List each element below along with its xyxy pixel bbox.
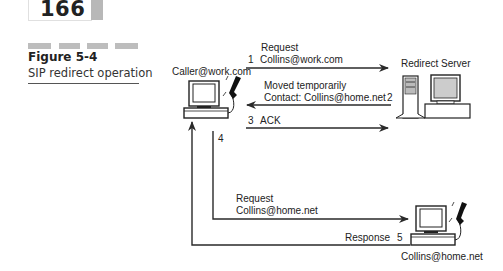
caller-computer-icon bbox=[184, 76, 241, 118]
message-arrow-5 bbox=[192, 122, 410, 245]
message-1-line1: Request bbox=[261, 42, 298, 54]
message-1-step: 1 bbox=[248, 54, 254, 66]
callee-label: Collins@home.net bbox=[401, 251, 483, 263]
sip-redirect-diagram bbox=[0, 0, 503, 271]
message-3-line1: ACK bbox=[260, 115, 281, 127]
message-5-line1: Response bbox=[345, 232, 390, 244]
message-4-line1: Request bbox=[236, 193, 273, 205]
message-4-line2: Collins@home.net bbox=[236, 205, 318, 217]
message-3-step: 3 bbox=[248, 115, 254, 127]
message-2-step: 2 bbox=[387, 92, 393, 104]
message-5-step: 5 bbox=[397, 232, 403, 244]
message-2-line1: Moved temporarily bbox=[264, 80, 346, 92]
message-2-line2: Contact: Collins@home.net bbox=[264, 92, 386, 104]
caller-label: Caller@work.com bbox=[172, 66, 251, 78]
message-4-step: 4 bbox=[218, 133, 224, 145]
callee-computer-icon bbox=[411, 202, 467, 245]
redirect-server-label: Redirect Server bbox=[401, 58, 470, 70]
phone-handset-icon bbox=[456, 202, 467, 225]
phone-handset-icon bbox=[229, 76, 241, 99]
message-1-line2: Collins@work.com bbox=[260, 54, 343, 66]
redirect-server-icon bbox=[396, 75, 470, 118]
